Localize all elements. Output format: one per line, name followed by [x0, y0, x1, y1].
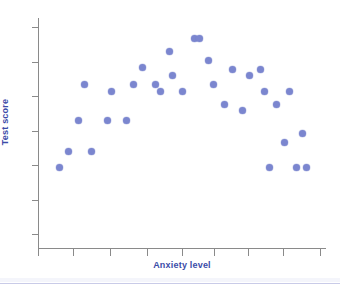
data-point [152, 81, 159, 88]
data-point [293, 164, 300, 171]
data-point [104, 117, 111, 124]
data-point [299, 130, 306, 137]
data-point [108, 88, 115, 95]
x-axis-tick [147, 249, 148, 256]
data-point [239, 107, 246, 114]
data-point [88, 148, 95, 155]
x-axis-tick [320, 249, 321, 256]
data-point [179, 88, 186, 95]
x-axis-tick [38, 249, 39, 256]
footer-divider [0, 283, 340, 284]
data-point [205, 57, 212, 64]
data-point [56, 164, 63, 171]
data-point [81, 81, 88, 88]
data-point [261, 88, 268, 95]
y-axis-title: Test score [0, 82, 10, 162]
data-point [130, 81, 137, 88]
data-point [166, 48, 173, 55]
data-point [281, 139, 288, 146]
data-point [123, 117, 130, 124]
data-point [157, 88, 164, 95]
x-axis-tick [182, 249, 183, 256]
data-point [303, 164, 310, 171]
x-axis-tick [214, 249, 215, 256]
data-point [273, 101, 280, 108]
x-axis-tick [283, 249, 284, 256]
data-point [221, 101, 228, 108]
data-point [139, 64, 146, 71]
data-point [196, 35, 203, 42]
scatter-plot-figure: Test score Anxiety level [0, 0, 340, 288]
data-point [210, 81, 217, 88]
data-point [169, 72, 176, 79]
data-point [266, 164, 273, 171]
data-point [257, 66, 264, 73]
x-axis-tick [73, 249, 74, 256]
data-point [65, 148, 72, 155]
x-axis-tick [110, 249, 111, 256]
x-axis-tick [248, 249, 249, 256]
data-point [229, 66, 236, 73]
footer-band [0, 278, 340, 282]
data-point [75, 117, 82, 124]
plot-area [38, 18, 326, 248]
x-axis-title: Anxiety level [38, 260, 326, 270]
data-point [286, 88, 293, 95]
data-point [246, 72, 253, 79]
